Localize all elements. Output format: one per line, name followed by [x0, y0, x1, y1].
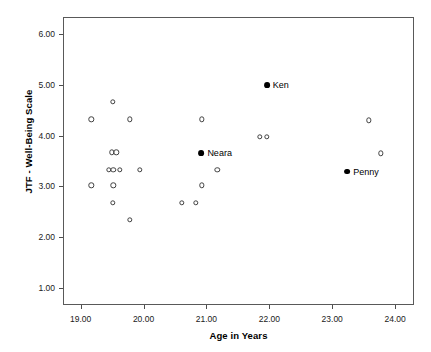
data-point-highlighted [264, 82, 270, 88]
y-tick-label: 1.00 [19, 283, 55, 293]
x-tick-mark [81, 305, 82, 309]
x-tick-label: 19.00 [70, 314, 91, 324]
data-point-label: Penny [353, 167, 379, 177]
y-tick-label: 3.00 [19, 181, 55, 191]
y-tick-mark [59, 288, 63, 289]
y-tick-mark [59, 85, 63, 86]
x-tick-label: 22.00 [259, 314, 280, 324]
data-point-highlighted [344, 169, 350, 175]
data-point-highlighted [198, 150, 204, 156]
data-point-label: Neara [207, 148, 232, 158]
data-point-label: Ken [273, 80, 289, 90]
x-tick-mark [395, 305, 396, 309]
x-axis-title: Age in Years [63, 330, 414, 341]
y-tick-label: 6.00 [19, 29, 55, 39]
scatter-plot-figure: JTF - Well-Being Scale Age in Years 1.00… [0, 0, 431, 352]
x-tick-mark [144, 305, 145, 309]
x-tick-label: 23.00 [322, 314, 343, 324]
y-tick-mark [59, 34, 63, 35]
y-tick-label: 2.00 [19, 232, 55, 242]
x-tick-mark [206, 305, 207, 309]
y-tick-label: 4.00 [19, 131, 55, 141]
y-tick-mark [59, 237, 63, 238]
x-tick-mark [332, 305, 333, 309]
x-tick-label: 20.00 [133, 314, 154, 324]
y-tick-label: 5.00 [19, 80, 55, 90]
x-tick-label: 24.00 [384, 314, 405, 324]
y-tick-mark [59, 136, 63, 137]
y-tick-mark [59, 186, 63, 187]
x-tick-label: 21.00 [196, 314, 217, 324]
plot-area [63, 17, 414, 305]
x-tick-mark [269, 305, 270, 309]
